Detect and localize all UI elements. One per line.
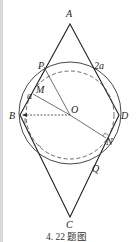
label-a: A (65, 8, 73, 19)
label-q: Q (92, 163, 100, 174)
label-side-a: a (27, 90, 32, 101)
solid-circle (19, 62, 121, 164)
label-c: C (66, 219, 73, 230)
arrow-head-icon (22, 113, 27, 117)
label-n: N (105, 136, 114, 147)
label-d: D (120, 110, 129, 121)
label-side-2a: 2a (94, 60, 104, 71)
label-m: M (35, 84, 45, 95)
label-b: B (9, 110, 15, 121)
tick-mark-lower (38, 145, 41, 147)
label-o: O (71, 104, 78, 115)
label-p: P (37, 60, 44, 71)
segment-on (70, 115, 106, 138)
rhombus-abcd (20, 24, 119, 217)
figure-caption: 4. 22 题图 (46, 232, 87, 242)
geometry-figure: A B C D O P M N Q a 2a 4. 22 题图 (0, 0, 140, 242)
